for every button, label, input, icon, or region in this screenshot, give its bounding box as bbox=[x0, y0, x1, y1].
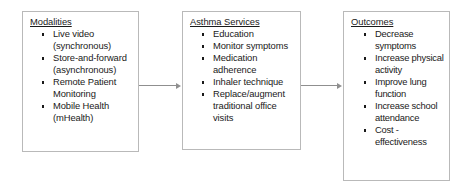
list-item: Monitor symptoms bbox=[190, 40, 295, 52]
list-item-label: Store-and-forward (asynchronous) bbox=[53, 52, 127, 75]
bullet-dot-icon bbox=[364, 81, 366, 83]
list-item-label: Remote Patient Monitoring bbox=[53, 76, 116, 99]
list-item: Medication adherence bbox=[190, 52, 295, 76]
list-item-label: Improve lung function bbox=[375, 76, 427, 99]
bullet-dot-icon bbox=[202, 45, 204, 47]
bullet-dot-icon bbox=[42, 81, 44, 83]
box-modalities-list: Live video (synchronous) Store-and-forwa… bbox=[30, 28, 133, 124]
list-item: Education bbox=[190, 28, 295, 40]
arrow-shaft bbox=[139, 85, 177, 86]
list-item: Inhaler technique bbox=[190, 76, 295, 88]
bullet-dot-icon bbox=[202, 57, 204, 59]
list-item-label: Increase school attendance bbox=[375, 100, 437, 123]
arrow-right-icon bbox=[301, 81, 343, 90]
bullet-dot-icon bbox=[364, 57, 366, 59]
bullet-dot-icon bbox=[202, 33, 204, 35]
list-item-label: Mobile Health (mHealth) bbox=[53, 100, 109, 123]
bullet-dot-icon bbox=[42, 33, 44, 35]
box-modalities-title: Modalities bbox=[30, 16, 133, 28]
list-item: Increase school attendance bbox=[351, 100, 444, 124]
bullet-dot-icon bbox=[364, 33, 366, 35]
list-item-label: Live video (synchronous) bbox=[53, 28, 111, 51]
bullet-dot-icon bbox=[364, 129, 366, 131]
list-item: Decrease symptoms bbox=[351, 28, 444, 52]
bullet-dot-icon bbox=[42, 105, 44, 107]
list-item: Live video (synchronous) bbox=[30, 28, 133, 52]
box-outcomes-list: Decrease symptoms Increase physical acti… bbox=[351, 28, 444, 148]
flow-diagram: Modalities Live video (synchronous) Stor… bbox=[0, 0, 472, 188]
box-asthma-services: Asthma Services Education Monitor sympto… bbox=[182, 11, 301, 150]
box-asthma-services-list: Education Monitor symptoms Medication ad… bbox=[190, 28, 295, 124]
list-item-label: Decrease symptoms bbox=[375, 28, 416, 51]
list-item-label: Monitor symptoms bbox=[213, 40, 288, 51]
arrow-right-icon bbox=[139, 81, 182, 90]
list-item: Improve lung function bbox=[351, 76, 444, 100]
list-item: Increase physical activity bbox=[351, 52, 444, 76]
list-item-label: Increase physical activity bbox=[375, 52, 444, 75]
list-item: Cost - effectiveness bbox=[351, 124, 444, 148]
list-item: Remote Patient Monitoring bbox=[30, 76, 133, 100]
list-item: Mobile Health (mHealth) bbox=[30, 100, 133, 124]
list-item-label: Cost - effectiveness bbox=[375, 124, 427, 147]
arrow-shaft bbox=[301, 85, 338, 86]
box-outcomes-title: Outcomes bbox=[351, 16, 444, 28]
box-outcomes: Outcomes Decrease symptoms Increase phys… bbox=[343, 11, 450, 181]
arrow-head bbox=[176, 83, 181, 89]
list-item: Replace/augment traditional office visit… bbox=[190, 88, 295, 124]
box-modalities: Modalities Live video (synchronous) Stor… bbox=[22, 11, 139, 152]
list-item-label: Inhaler technique bbox=[213, 76, 283, 87]
bullet-dot-icon bbox=[364, 105, 366, 107]
list-item-label: Replace/augment traditional office visit… bbox=[213, 88, 285, 123]
bullet-dot-icon bbox=[202, 81, 204, 83]
list-item-label: Education bbox=[213, 28, 254, 39]
box-asthma-services-title: Asthma Services bbox=[190, 16, 295, 28]
bullet-dot-icon bbox=[42, 57, 44, 59]
list-item-label: Medication adherence bbox=[213, 52, 257, 75]
bullet-dot-icon bbox=[202, 93, 204, 95]
arrow-head bbox=[337, 83, 342, 89]
list-item: Store-and-forward (asynchronous) bbox=[30, 52, 133, 76]
